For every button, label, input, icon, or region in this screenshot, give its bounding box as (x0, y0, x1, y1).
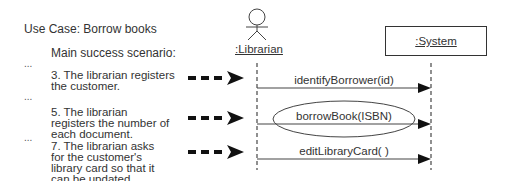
use-case-title: Use Case: Borrow books (24, 22, 157, 36)
message-label-1: identifyBorrower(id) (257, 74, 431, 86)
ellipsis-3: ... (24, 134, 32, 142)
scenario-heading: Main success scenario: (51, 46, 176, 60)
mapping-arrow-1 (188, 71, 244, 85)
mapping-arrow-3 (188, 145, 244, 159)
ellipsis-2: ... (24, 93, 32, 101)
system-object-box: :System (385, 26, 487, 56)
scenario-step-3: 3. The librarian registers the customer. (51, 70, 176, 92)
message-label-3: editLibraryCard( ) (257, 145, 431, 157)
stick-figure-icon (246, 9, 268, 40)
ellipsis-1: ... (24, 60, 32, 68)
scenario-step-7: 7. The librarian asks for the customer's… (51, 141, 169, 181)
actor-librarian-label: :Librarian (235, 43, 283, 55)
message-label-2: borrowBook(ISBN) (257, 110, 431, 122)
mapping-arrow-2 (188, 111, 244, 125)
system-object-label: :System (386, 35, 486, 47)
scenario-step-5: 5. The librarian registers the number of… (51, 107, 171, 140)
